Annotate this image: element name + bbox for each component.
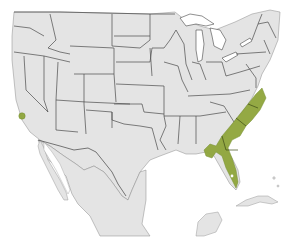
yucatan <box>196 212 222 236</box>
lake-superior <box>180 14 214 26</box>
range-map <box>0 0 292 243</box>
cuba <box>236 196 278 206</box>
map-svg <box>0 0 292 243</box>
bahamas-2 <box>277 185 279 187</box>
range-california <box>19 113 25 119</box>
lake-okeechobee <box>231 175 234 178</box>
bahamas <box>273 177 275 179</box>
